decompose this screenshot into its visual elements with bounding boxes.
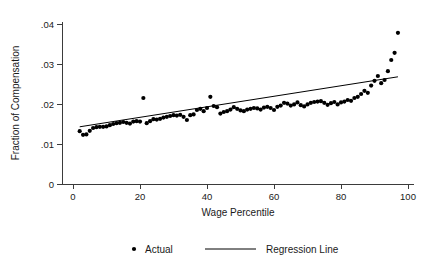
data-point <box>181 115 185 119</box>
x-axis-ticks: 020406080100 <box>70 184 416 202</box>
data-point <box>349 99 353 103</box>
data-point <box>356 95 360 99</box>
data-point <box>386 69 390 73</box>
data-point <box>389 58 393 62</box>
y-axis-title: Fraction of Compensation <box>10 46 21 161</box>
data-point <box>396 31 400 35</box>
data-point <box>208 95 212 99</box>
data-point <box>272 108 276 112</box>
legend-label-actual: Actual <box>145 244 173 255</box>
y-tick-label: .02 <box>41 99 54 110</box>
axes <box>62 22 414 184</box>
legend-label-regression-line: Regression Line <box>266 244 339 255</box>
data-point <box>192 112 196 116</box>
y-tick-label: .04 <box>41 19 54 30</box>
x-tick-label: 20 <box>135 191 146 202</box>
data-point <box>84 132 88 136</box>
data-point <box>88 129 92 133</box>
y-tick-label: .03 <box>41 59 54 70</box>
data-point <box>369 84 373 88</box>
x-tick-label: 80 <box>336 191 347 202</box>
data-point <box>138 120 142 124</box>
data-point <box>393 51 397 55</box>
data-point <box>376 74 380 78</box>
data-point <box>185 118 189 122</box>
data-point <box>295 100 299 104</box>
x-axis-title: Wage Percentile <box>202 207 275 218</box>
x-tick-label: 40 <box>202 191 213 202</box>
y-tick-label: 0 <box>49 179 54 190</box>
chart-figure: 0.01.02.03.04 020406080100 Fraction of C… <box>0 0 432 270</box>
data-point <box>202 109 206 113</box>
data-point <box>359 92 363 96</box>
x-tick-label: 60 <box>269 191 280 202</box>
data-point <box>141 96 145 100</box>
x-tick-label: 100 <box>400 191 416 202</box>
data-point <box>379 81 383 85</box>
legend-marker-actual <box>132 247 136 251</box>
y-tick-label: .01 <box>41 139 54 150</box>
data-point <box>279 104 283 108</box>
data-point <box>78 129 82 133</box>
scatter-plot: 0.01.02.03.04 020406080100 Fraction of C… <box>0 0 432 270</box>
chart-legend: Actual Regression Line <box>132 244 339 255</box>
x-tick-label: 0 <box>70 191 75 202</box>
y-axis-ticks: 0.01.02.03.04 <box>41 19 62 190</box>
data-point <box>366 91 370 95</box>
